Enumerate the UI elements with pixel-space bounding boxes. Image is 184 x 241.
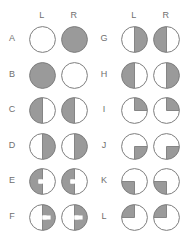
stimulus-row: D	[0, 131, 92, 163]
row-label: F	[6, 211, 18, 221]
row-label: I	[98, 104, 110, 114]
cell-left	[26, 97, 58, 125]
disc-half-right	[61, 133, 88, 160]
disc-half-right-notched	[61, 204, 88, 231]
disc-quad-lr	[121, 133, 148, 160]
disc-full	[29, 62, 56, 89]
row-label: E	[6, 175, 18, 185]
cell-left	[118, 97, 150, 125]
cell-left	[26, 26, 58, 54]
stimulus-row: J	[92, 131, 184, 163]
cell-right	[58, 26, 90, 54]
cell-right	[150, 97, 182, 125]
disc-half-left	[29, 97, 56, 124]
row-label: A	[6, 33, 18, 43]
disc-full	[61, 26, 88, 53]
cell-right	[58, 204, 90, 232]
disc-empty	[61, 62, 88, 89]
disc-quad-ur	[153, 97, 180, 124]
stimulus-row: C	[0, 95, 92, 127]
cell-left	[26, 62, 58, 90]
disc-empty	[29, 26, 56, 53]
cell-right	[150, 133, 182, 161]
disc-quad-ll	[153, 168, 180, 195]
row-label: B	[6, 69, 18, 79]
disc-half-left-notched	[61, 168, 88, 195]
disc-quad-ul	[121, 204, 148, 231]
disc-half-right-notched	[29, 204, 56, 231]
cell-right	[58, 133, 90, 161]
stimulus-row: F	[0, 202, 92, 234]
panel-left: L R ABCDEF	[0, 0, 92, 241]
cell-right	[150, 204, 182, 232]
cell-left	[118, 133, 150, 161]
stimulus-figure: L R ABCDEF L R GHIJKL	[0, 0, 184, 241]
disc-half-right	[153, 62, 180, 89]
disc-half-left	[61, 97, 88, 124]
cell-left	[118, 62, 150, 90]
cell-left	[26, 168, 58, 196]
stimulus-row: I	[92, 95, 184, 127]
column-header-right-R: R	[150, 10, 182, 20]
cell-right	[58, 97, 90, 125]
stimulus-row: L	[92, 202, 184, 234]
cell-left	[118, 26, 150, 54]
column-header-right-L: L	[118, 10, 150, 20]
stimulus-row: K	[92, 166, 184, 198]
disc-half-right	[121, 26, 148, 53]
row-label: D	[6, 140, 18, 150]
stimulus-row: E	[0, 166, 92, 198]
column-header-left-L: L	[26, 10, 58, 20]
stimulus-row: G	[92, 24, 184, 56]
cell-right	[150, 62, 182, 90]
cell-left	[118, 168, 150, 196]
row-label: K	[98, 175, 110, 185]
stimulus-row: A	[0, 24, 92, 56]
cell-right	[58, 62, 90, 90]
cell-left	[26, 133, 58, 161]
cell-right	[150, 26, 182, 54]
disc-quad-ul	[153, 204, 180, 231]
row-label: L	[98, 211, 110, 221]
disc-half-left-notched	[29, 168, 56, 195]
row-label: J	[98, 140, 110, 150]
disc-quad-ur	[121, 97, 148, 124]
row-label: G	[98, 33, 110, 43]
cell-left	[118, 204, 150, 232]
row-label: H	[98, 69, 110, 79]
disc-quad-lr	[153, 133, 180, 160]
stimulus-row: B	[0, 60, 92, 92]
disc-half-right	[29, 133, 56, 160]
row-label: C	[6, 104, 18, 114]
cell-left	[26, 204, 58, 232]
panel-right: L R GHIJKL	[92, 0, 184, 241]
disc-half-left	[153, 26, 180, 53]
cell-right	[150, 168, 182, 196]
column-header-left-R: R	[58, 10, 90, 20]
stimulus-row: H	[92, 60, 184, 92]
disc-quad-ll	[121, 168, 148, 195]
disc-half-left	[121, 62, 148, 89]
cell-right	[58, 168, 90, 196]
